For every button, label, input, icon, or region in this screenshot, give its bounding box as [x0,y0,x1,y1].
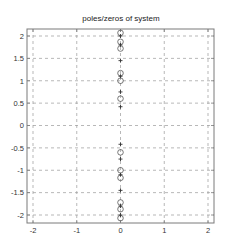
pole-marker-icon [119,90,123,94]
pole-marker-icon [119,173,123,177]
y-tick-label: -0.5 [11,144,24,153]
grid-lines [27,29,214,223]
y-tick-label: 1.5 [14,54,24,63]
x-axis-ticks: -2-1012 [30,29,210,235]
y-tick-label: -1 [17,166,24,175]
pole-marker-icon [119,74,123,78]
pole-zero-plot: poles/zeros of system 21.510.50-0.5-1-1.… [0,0,226,248]
y-tick-label: 0 [20,121,24,130]
x-tick-label: -1 [73,226,80,235]
y-tick-label: 1 [20,77,24,86]
x-tick-label: -2 [30,226,37,235]
pole-marker-icon [119,105,123,109]
x-tick-label: 2 [206,226,210,235]
y-tick-label: -2 [17,211,24,220]
pole-marker-icon [119,188,123,192]
y-tick-label: 2 [20,32,24,41]
x-tick-label: 1 [162,226,166,235]
chart-title: poles/zeros of system [82,14,160,23]
y-tick-label: 0.5 [14,99,24,108]
pole-marker-icon [119,59,123,63]
pole-marker-icon [119,213,123,217]
pole-marker-icon [119,34,123,38]
x-tick-label: 0 [118,226,122,235]
pole-marker-icon [119,157,123,161]
y-tick-label: -1.5 [11,188,24,197]
pole-marker-icon [119,142,123,146]
